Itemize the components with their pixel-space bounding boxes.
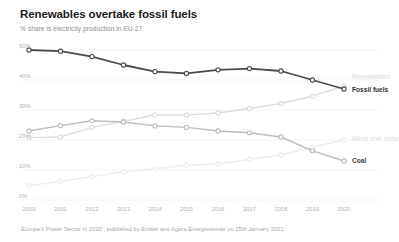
series-point bbox=[216, 129, 220, 133]
series-point bbox=[153, 70, 157, 74]
series-line bbox=[29, 50, 344, 89]
series-point bbox=[184, 71, 188, 75]
series-point bbox=[342, 159, 346, 163]
y-axis-tick-label: 0% bbox=[19, 193, 27, 199]
series-point bbox=[153, 113, 157, 117]
x-axis-tick-label: 2011 bbox=[46, 206, 76, 212]
x-axis-tick-label: 2020 bbox=[329, 206, 359, 212]
x-axis-tick-label: 2015 bbox=[172, 206, 202, 212]
series-point bbox=[310, 94, 314, 98]
series-point bbox=[279, 153, 283, 157]
series-point bbox=[90, 125, 94, 129]
series-point bbox=[279, 69, 283, 73]
series-point bbox=[216, 68, 220, 72]
series-point bbox=[121, 63, 125, 67]
series-label-renewables: Renewables bbox=[352, 73, 390, 80]
source-footnote: ‚Europe's Power Sector in 2020“, publish… bbox=[20, 226, 285, 232]
series-point bbox=[58, 135, 62, 139]
x-axis-tick-label: 2014 bbox=[140, 206, 170, 212]
series-point bbox=[27, 184, 31, 188]
series-point bbox=[216, 111, 220, 115]
series-point bbox=[184, 125, 188, 129]
series-point bbox=[310, 149, 314, 153]
series-point bbox=[153, 124, 157, 128]
series-point bbox=[121, 120, 125, 124]
series-point bbox=[247, 106, 251, 110]
series-point bbox=[342, 87, 346, 91]
series-point bbox=[90, 119, 94, 123]
y-axis-tick-label: 40% bbox=[19, 73, 31, 79]
series-point bbox=[279, 101, 283, 105]
series-point bbox=[58, 49, 62, 53]
series-point bbox=[90, 175, 94, 179]
series-point bbox=[184, 113, 188, 117]
y-axis-tick-label: 30% bbox=[19, 103, 31, 109]
series-label-wind-and-solar: Wind and solar bbox=[352, 135, 399, 142]
series-point bbox=[310, 78, 314, 82]
y-axis-tick-label: 20% bbox=[19, 133, 31, 139]
series-point bbox=[121, 170, 125, 174]
series-point bbox=[184, 163, 188, 167]
x-axis-tick-label: 2019 bbox=[298, 206, 328, 212]
series-label-fossil-fuels: Fossil fuels bbox=[352, 86, 388, 93]
x-axis-tick-label: 2010 bbox=[14, 206, 44, 212]
series-point bbox=[247, 67, 251, 71]
y-axis-tick-label: 10% bbox=[19, 163, 31, 169]
series-point bbox=[90, 55, 94, 59]
x-axis-tick-label: 2017 bbox=[235, 206, 265, 212]
series-point bbox=[58, 179, 62, 183]
series-point bbox=[247, 157, 251, 161]
x-axis-tick-label: 2012 bbox=[77, 206, 107, 212]
x-axis-tick-label: 2016 bbox=[203, 206, 233, 212]
x-axis-tick-label: 2013 bbox=[109, 206, 139, 212]
series-point bbox=[342, 138, 346, 142]
y-axis-tick-label: 50% bbox=[19, 43, 31, 49]
series-point bbox=[279, 135, 283, 139]
series-label-coal: Coal bbox=[352, 157, 366, 164]
series-point bbox=[153, 167, 157, 171]
series-point bbox=[58, 124, 62, 128]
x-axis-tick-label: 2018 bbox=[266, 206, 296, 212]
series-point bbox=[247, 131, 251, 135]
series-point bbox=[216, 162, 220, 166]
